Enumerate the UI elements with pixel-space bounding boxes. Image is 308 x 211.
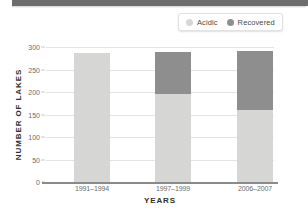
y-tick-mark [41,69,45,70]
legend-swatch-recovered [227,19,234,26]
x-tick-label: 2006–2007 [238,185,272,192]
y-tick-mark [41,114,45,115]
y-tick-mark [41,137,45,138]
top-band-shadow [12,6,306,8]
legend-swatch-acidic [186,19,193,26]
y-axis-title: NUMBER OF LAKES [12,47,26,182]
y-tick-label: 300 [28,44,40,51]
bar-segment-acidic [155,94,191,182]
chart-legend: Acidic Recovered [178,13,283,31]
bar-3 [237,51,273,182]
bar-segment-recovered [237,51,273,110]
x-axis-line [42,182,278,184]
x-tick-label: 1991–1994 [75,185,109,192]
bar-segment-recovered [155,52,191,94]
gridline [46,47,274,48]
y-tick-label: 200 [28,89,40,96]
bar-2 [155,52,191,182]
x-tick-label: 1997–1999 [156,185,190,192]
bar-segment-acidic [74,53,110,182]
bar-1 [74,53,110,182]
x-axis-title: YEARS [46,196,274,205]
y-tick-mark [41,92,45,93]
y-tick-label: 50 [32,156,40,163]
legend-item-acidic: Acidic [186,18,218,27]
y-tick-mark [41,159,45,160]
y-tick-label: 0 [36,179,40,186]
bar-segment-acidic [237,110,273,182]
legend-label-acidic: Acidic [197,18,218,27]
y-axis-title-text: NUMBER OF LAKES [15,69,24,160]
y-tick-label: 100 [28,134,40,141]
y-tick-mark [41,47,45,48]
legend-item-recovered: Recovered [227,18,275,27]
legend-label-recovered: Recovered [238,18,275,27]
plot-area: 050100150200250300 1991–19941997–1999200… [46,47,274,182]
y-tick-label: 250 [28,66,40,73]
y-tick-label: 150 [28,111,40,118]
